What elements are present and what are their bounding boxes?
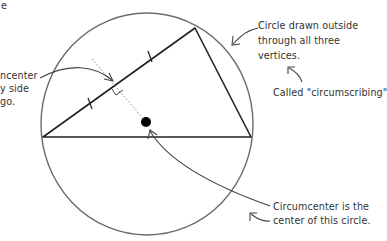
right-angle-marker xyxy=(112,89,123,95)
circumcenter-dot xyxy=(141,117,151,127)
left-note-line-3: go. xyxy=(0,95,15,108)
top-right-note-arrow xyxy=(233,28,258,44)
called-note-arrow xyxy=(289,68,302,82)
circumcenter-note-line-1: Circumcenter is the xyxy=(273,200,369,213)
circle-note-arrow xyxy=(251,214,270,221)
left-note-line-1: ncenter xyxy=(0,69,38,82)
left-note-line-2: y side xyxy=(0,82,29,95)
top-right-note-line-2: through all three xyxy=(258,34,340,47)
top-right-note-line-3: vertices. xyxy=(258,49,300,62)
called-circumscribing-note: Called "circumscribing" xyxy=(273,86,387,99)
circumcenter-note-line-2: center of this circle. xyxy=(273,214,371,227)
top-right-note-line-1: Circle drawn outside xyxy=(258,19,358,32)
top-left-fragment: e xyxy=(1,0,7,12)
